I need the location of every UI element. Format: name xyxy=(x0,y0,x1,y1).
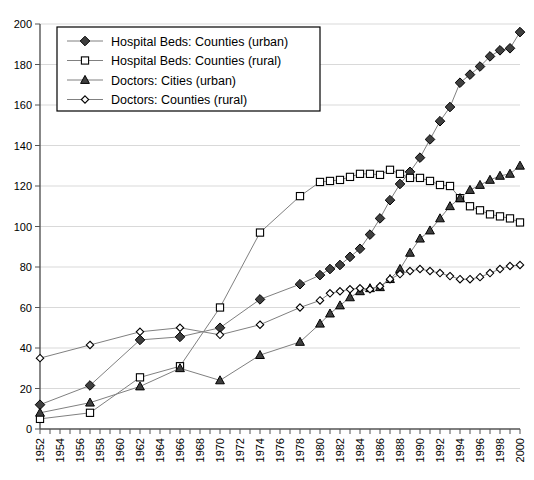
data-point xyxy=(476,207,483,214)
data-point xyxy=(506,262,513,269)
y-axis-tick-label: 180 xyxy=(14,59,32,71)
x-axis-tick-label: 1960 xyxy=(114,438,126,462)
data-point xyxy=(176,324,183,331)
y-axis-tick-label: 160 xyxy=(14,99,32,111)
data-point xyxy=(486,269,493,276)
data-point xyxy=(466,185,475,193)
data-point xyxy=(336,288,343,295)
y-axis-tick-label: 40 xyxy=(20,342,32,354)
data-point xyxy=(316,178,323,185)
data-point xyxy=(36,354,43,361)
data-point xyxy=(406,267,413,274)
data-point xyxy=(175,332,185,342)
data-point xyxy=(346,293,355,301)
data-point xyxy=(375,214,385,224)
data-point xyxy=(385,195,395,205)
data-point xyxy=(295,279,305,289)
data-point xyxy=(216,331,223,338)
data-point xyxy=(446,272,453,279)
data-point xyxy=(81,57,88,64)
x-axis-tick-label: 1970 xyxy=(214,438,226,462)
y-axis-tick-label: 120 xyxy=(14,180,32,192)
data-point xyxy=(515,27,525,37)
series-2 xyxy=(36,161,525,416)
data-point xyxy=(496,265,503,272)
x-axis-tick-label: 1988 xyxy=(394,438,406,462)
legend-label: Doctors: Cities (urban) xyxy=(111,74,236,88)
data-point xyxy=(445,102,455,112)
data-point xyxy=(356,170,363,177)
data-point xyxy=(326,177,333,184)
x-axis-tick-label: 1998 xyxy=(494,438,506,462)
y-axis: 020406080100120140160180200 xyxy=(14,18,40,435)
y-axis-tick-label: 80 xyxy=(20,261,32,273)
x-axis-tick-label: 1962 xyxy=(134,438,146,462)
data-point xyxy=(505,44,515,54)
data-point xyxy=(516,261,523,268)
data-point xyxy=(426,177,433,184)
data-point xyxy=(136,374,143,381)
y-axis-tick-label: 140 xyxy=(14,140,32,152)
data-point xyxy=(486,211,493,218)
x-axis: 1952195419561958196019621964196619681970… xyxy=(34,429,526,462)
data-point xyxy=(136,328,143,335)
data-point xyxy=(456,275,463,282)
y-axis-tick-label: 0 xyxy=(26,423,32,435)
x-axis-tick-label: 1982 xyxy=(334,438,346,462)
data-point xyxy=(316,297,323,304)
data-point xyxy=(366,170,373,177)
x-axis-tick-label: 1964 xyxy=(154,438,166,462)
x-axis-tick-label: 1978 xyxy=(294,438,306,462)
data-point xyxy=(516,161,525,169)
legend-label: Hospital Beds: Counties (urban) xyxy=(111,35,288,49)
data-point xyxy=(486,175,495,183)
x-axis-tick-label: 1980 xyxy=(314,438,326,462)
data-point xyxy=(396,170,403,177)
data-point xyxy=(326,290,333,297)
data-point xyxy=(336,301,345,309)
x-axis-tick-label: 1966 xyxy=(174,438,186,462)
x-axis-tick-label: 1992 xyxy=(434,438,446,462)
x-axis-tick-label: 1954 xyxy=(54,438,66,462)
data-point xyxy=(406,174,413,181)
x-axis-tick-label: 1976 xyxy=(274,438,286,462)
data-point xyxy=(336,176,343,183)
x-axis-tick-label: 1968 xyxy=(194,438,206,462)
x-axis-tick-label: 1958 xyxy=(94,438,106,462)
data-point xyxy=(325,264,335,274)
data-point xyxy=(86,409,93,416)
data-point xyxy=(136,382,145,390)
data-point xyxy=(406,248,415,256)
data-point xyxy=(435,116,445,126)
legend-label: Doctors: Counties (rural) xyxy=(111,93,247,107)
x-axis-tick-label: 1986 xyxy=(374,438,386,462)
data-point xyxy=(466,203,473,210)
data-point xyxy=(416,234,425,242)
x-axis-tick-label: 1984 xyxy=(354,438,366,462)
data-point xyxy=(296,193,303,200)
data-point xyxy=(476,180,485,188)
data-point xyxy=(416,174,423,181)
y-axis-tick-label: 100 xyxy=(14,221,32,233)
data-point xyxy=(425,135,435,145)
data-point xyxy=(346,286,353,293)
x-axis-tick-label: 1956 xyxy=(74,438,86,462)
data-point xyxy=(216,304,223,311)
data-point xyxy=(416,265,423,272)
x-axis-tick-label: 1994 xyxy=(454,438,466,462)
line-chart: 0204060801001201401601802001952195419561… xyxy=(0,0,534,480)
data-point xyxy=(346,173,353,180)
y-axis-tick-label: 200 xyxy=(14,18,32,30)
data-point xyxy=(436,181,443,188)
data-point xyxy=(296,304,303,311)
chart-container: 0204060801001201401601802001952195419561… xyxy=(0,0,534,480)
series-3 xyxy=(36,261,523,362)
x-axis-tick-label: 1952 xyxy=(34,438,46,462)
data-point xyxy=(365,230,375,240)
data-point xyxy=(506,215,513,222)
x-axis-tick-label: 1974 xyxy=(254,438,266,462)
data-point xyxy=(255,295,265,305)
data-point xyxy=(495,46,505,56)
x-axis-tick-label: 2000 xyxy=(514,438,526,462)
data-point xyxy=(415,153,425,163)
